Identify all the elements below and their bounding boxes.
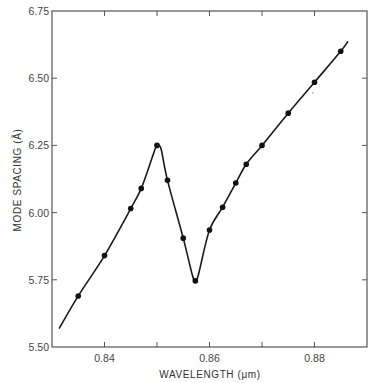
plot-frame bbox=[52, 11, 367, 347]
y-tick-label: 6.50 bbox=[29, 72, 50, 84]
y-tick-label: 5.50 bbox=[29, 341, 50, 353]
axis-ticks bbox=[52, 11, 367, 347]
tick-labels: 0.840.860.885.505.756.006.256.506.75 bbox=[29, 5, 325, 364]
y-tick-label: 6.00 bbox=[29, 207, 50, 219]
data-point bbox=[338, 49, 344, 55]
fitted-curve bbox=[59, 42, 347, 328]
data-point bbox=[180, 235, 186, 241]
data-point bbox=[233, 180, 239, 186]
x-tick-label: 0.86 bbox=[199, 352, 220, 364]
data-point bbox=[312, 79, 318, 85]
data-point bbox=[243, 161, 249, 167]
data-point bbox=[259, 143, 265, 149]
fitted-curve-path bbox=[59, 42, 347, 328]
axes-frame bbox=[52, 11, 367, 347]
y-tick-label: 6.25 bbox=[29, 139, 50, 151]
y-axis-label: MODE SPACING (Å) bbox=[11, 129, 23, 232]
data-point bbox=[193, 278, 199, 284]
data-point bbox=[138, 186, 144, 192]
x-tick-label: 0.84 bbox=[94, 352, 115, 364]
data-point bbox=[154, 143, 160, 149]
data-point bbox=[165, 178, 171, 184]
x-tick-label: 0.88 bbox=[304, 352, 325, 364]
mode-spacing-chart: 0.840.860.885.505.756.006.256.506.75 ′ W… bbox=[0, 0, 378, 383]
data-point bbox=[207, 227, 213, 233]
data-point bbox=[285, 110, 291, 116]
y-tick-label: 5.75 bbox=[29, 274, 50, 286]
x-axis-label: WAVELENGTH (μm) bbox=[159, 369, 260, 380]
data-point bbox=[75, 293, 81, 299]
stray-mark: ′ bbox=[312, 90, 314, 99]
data-point bbox=[102, 253, 108, 259]
data-point bbox=[128, 206, 134, 212]
annotations: ′ bbox=[312, 90, 314, 99]
data-points bbox=[75, 49, 343, 299]
y-tick-label: 6.75 bbox=[29, 5, 50, 17]
data-point bbox=[220, 204, 226, 210]
